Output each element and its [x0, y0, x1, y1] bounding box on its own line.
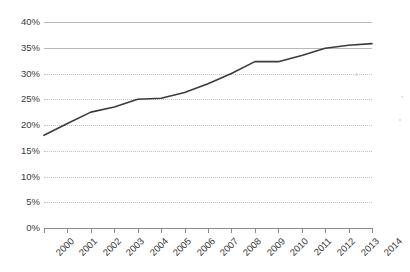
x-tick: [161, 228, 162, 233]
x-tick: [231, 228, 232, 233]
x-tick: [114, 228, 115, 233]
x-tick-label: 2008: [242, 236, 264, 258]
x-tick-label: 2000: [54, 236, 76, 258]
x-tick: [325, 228, 326, 233]
x-tick-label: 2011: [312, 236, 333, 257]
y-tick-label: 15%: [4, 146, 40, 156]
x-tick-label: 2003: [124, 236, 146, 258]
scan-speck: [355, 73, 358, 76]
x-tick: [349, 228, 350, 233]
x-tick: [372, 228, 373, 233]
x-tick-label: 2006: [195, 236, 217, 258]
x-tick-label: 2005: [171, 236, 193, 258]
y-tick-label: 30%: [4, 69, 40, 79]
x-tick-label: 2004: [148, 236, 170, 258]
y-tick-label: 0%: [4, 223, 40, 233]
y-tick-label: 40%: [4, 17, 40, 27]
x-tick-label: 2007: [218, 236, 240, 258]
scan-speck: [399, 119, 401, 121]
line-chart: 0%5%10%15%20%25%30%35%40% 20002001200220…: [0, 0, 410, 272]
y-axis: 0%5%10%15%20%25%30%35%40%: [0, 22, 410, 228]
x-tick: [44, 228, 45, 233]
x-tick: [91, 228, 92, 233]
scan-speck: [401, 96, 403, 98]
x-tick-label: 2013: [359, 236, 381, 258]
y-tick-label: 20%: [4, 120, 40, 130]
x-tick: [208, 228, 209, 233]
y-tick-label: 5%: [4, 198, 40, 208]
x-tick: [278, 228, 279, 233]
x-tick: [255, 228, 256, 233]
y-tick-label: 25%: [4, 95, 40, 105]
x-tick-label: 2002: [101, 236, 123, 258]
x-tick-label: 2001: [78, 236, 100, 258]
x-tick-label: 2009: [265, 236, 287, 258]
x-tick: [67, 228, 68, 233]
y-tick-label: 10%: [4, 172, 40, 182]
x-tick-label: 2010: [288, 236, 310, 258]
x-tick: [302, 228, 303, 233]
x-tick-label: 2012: [335, 236, 357, 258]
y-tick-label: 35%: [4, 43, 40, 53]
x-tick-label: 2014: [382, 236, 404, 258]
x-tick: [185, 228, 186, 233]
x-tick: [138, 228, 139, 233]
